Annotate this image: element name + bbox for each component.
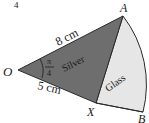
- angle-numerator: π: [47, 57, 51, 66]
- point-a-label: A: [119, 1, 128, 15]
- point-o-label: O: [3, 64, 13, 79]
- angle-denominator: 4: [47, 69, 51, 78]
- question-number: 4: [14, 0, 19, 10]
- sector-diagram: 4 O A X B 8 cm 5 cm π 4 Silver Glass: [0, 0, 149, 123]
- point-x-label: X: [86, 105, 95, 119]
- point-b-label: B: [138, 112, 146, 123]
